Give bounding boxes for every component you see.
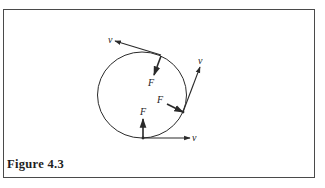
circular-path [98,52,187,138]
force-label-right: F [156,94,164,105]
figure-caption: Figure 4.3 [7,157,64,172]
force-arrow-top [154,56,161,75]
velocity-arrow-top [115,41,161,55]
force-label-top: F [147,77,155,88]
force-arrow-right [167,104,183,112]
force-label-bottom: F [139,106,147,117]
velocity-arrow-right [183,67,200,112]
velocity-label-top: v [108,34,113,45]
top-point-vectors: v F [108,34,161,88]
velocity-label-right: v [198,55,203,66]
right-point-vectors: v F [156,55,203,113]
point-dot-bottom [142,137,145,140]
bottom-point-vectors: v F [139,106,197,143]
point-dot-right [182,111,185,114]
velocity-label-bottom: v [192,132,197,143]
